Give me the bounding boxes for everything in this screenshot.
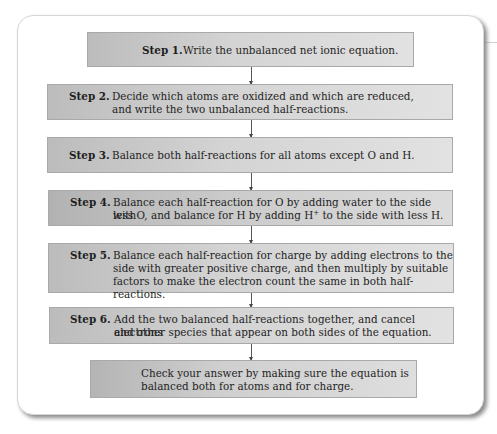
arrow-5-6	[251, 293, 252, 307]
arrow-2-3	[251, 120, 252, 137]
step-5-line-1: Balance each half-reaction for charge by…	[113, 249, 453, 262]
step-2-line-2: and write the two unbalanced half-reacti…	[112, 103, 348, 116]
step-4-label: Step 4.	[70, 196, 111, 209]
step-5-label: Step 5.	[70, 249, 111, 262]
final-check-line-1: Check your answer by making sure the equ…	[141, 367, 409, 380]
step-2-box: Step 2. Decide which atoms are oxidized …	[47, 84, 453, 120]
step-6-line-2: and other species that appear on both si…	[114, 326, 432, 339]
step-6-box: Step 6. Add the two balanced half-reacti…	[49, 307, 454, 344]
step-5-box: Step 5. Balance each half-reaction for c…	[48, 243, 454, 293]
step-6-label: Step 6.	[70, 313, 111, 326]
step-3-box: Step 3. Balance both half-reactions for …	[47, 137, 453, 173]
step-4-box: Step 4. Balance each half-reaction for O…	[48, 190, 453, 226]
arrow-1-2	[251, 67, 252, 84]
step-5-line-2: side with greater positive charge, and t…	[113, 262, 448, 275]
final-check-line-2: balanced both for atoms and for charge.	[141, 380, 354, 393]
step-1-text: Write the unbalanced net ionic equation.	[183, 44, 398, 57]
step-1-box: Step 1. Write the unbalanced net ionic e…	[87, 32, 414, 67]
step-5-line-3: factors to make the electron count the s…	[113, 275, 453, 301]
step-1-label: Step 1.	[142, 44, 183, 57]
step-3-label: Step 3.	[69, 149, 110, 162]
step-3-text: Balance both half-reactions for all atom…	[112, 149, 415, 162]
step-2-line-1: Decide which atoms are oxidized and whic…	[112, 90, 414, 103]
step-4-line-2: less O, and balance for H by adding H+ t…	[113, 209, 443, 222]
arrow-4-5	[251, 226, 252, 243]
arrow-3-4	[251, 173, 252, 190]
step-4-line-2-post: to the side with less H.	[319, 209, 443, 221]
step-4-line-2-pre: less O, and balance for H by adding H	[113, 209, 313, 221]
arrow-6-final	[251, 344, 252, 360]
final-check-box: Check your answer by making sure the equ…	[90, 360, 417, 398]
step-2-label: Step 2.	[69, 90, 110, 103]
